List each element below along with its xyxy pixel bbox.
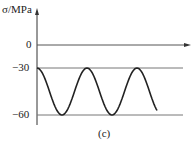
y-axis-arrow-icon <box>35 8 39 15</box>
tick-0: 0 <box>26 38 32 50</box>
y-axis-label: σ/MPa <box>2 3 32 15</box>
x-axis-arrow-icon <box>184 43 191 47</box>
tick-minus60: −60 <box>12 108 29 120</box>
caption: (c) <box>98 127 110 139</box>
stress-curve <box>37 68 157 115</box>
tick-minus30: −30 <box>12 61 29 73</box>
